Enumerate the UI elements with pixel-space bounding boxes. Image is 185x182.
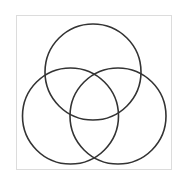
three-circle-venn-diagram [0, 0, 185, 182]
venn-circle-top [45, 24, 141, 120]
diagram-frame [17, 16, 172, 170]
venn-diagram-canvas [0, 0, 185, 182]
